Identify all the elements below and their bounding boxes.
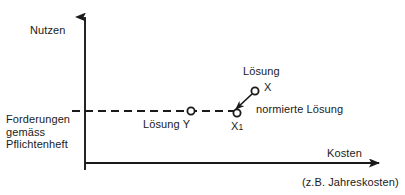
x-axis-label: Kosten <box>327 147 362 160</box>
solution-y-label: Lösung Y <box>143 118 190 131</box>
marker-loesung-x <box>251 87 258 94</box>
solution-x-point-label: X <box>264 81 271 94</box>
solution-x-label: Lösung <box>243 65 280 78</box>
x1-label: X1 <box>231 120 243 134</box>
marker-loesung-y <box>187 107 194 114</box>
normalization-arrow <box>236 94 252 109</box>
requirement-line-label: Forderungen gemäss Pflichtenheft <box>6 113 70 151</box>
normalized-solution-label: normierte Lösung <box>256 103 343 116</box>
marker-x1 <box>233 109 240 116</box>
y-axis-label: Nutzen <box>30 24 65 37</box>
x-axis-note: (z.B. Jahreskosten) <box>302 176 399 189</box>
diagram-canvas: Nutzen Kosten (z.B. Jahreskosten) Forder… <box>0 0 405 195</box>
x1-label-subscript: 1 <box>238 122 243 132</box>
